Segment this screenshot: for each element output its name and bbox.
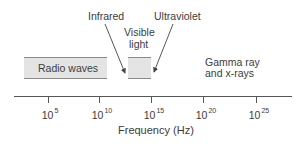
axis-tick <box>151 97 152 103</box>
axis-tick <box>256 97 257 103</box>
axis-tick-label: 105 <box>42 107 59 121</box>
frequency-axis <box>14 96 292 97</box>
axis-tick <box>99 97 100 103</box>
axis-tick <box>48 97 49 103</box>
axis-tick <box>203 97 204 103</box>
infrared-arrow-icon <box>105 24 125 73</box>
axis-tick-label: 1010 <box>92 107 112 121</box>
gamma-ray-label-line2: and x-rays <box>205 67 254 79</box>
axis-tick-label: 1020 <box>196 107 216 121</box>
axis-title: Frequency (Hz) <box>118 124 194 136</box>
axis-tick-label: 1015 <box>144 107 164 121</box>
ultraviolet-arrow-icon <box>154 24 173 72</box>
axis-tick-label: 1025 <box>249 107 269 121</box>
